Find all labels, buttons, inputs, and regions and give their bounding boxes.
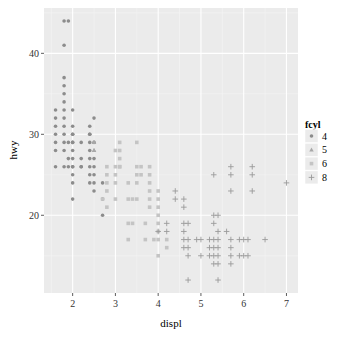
data-point-cyl-6	[114, 197, 118, 201]
y-axis-title: hwy	[7, 140, 19, 159]
data-point-cyl-4	[62, 133, 66, 137]
x-axis-title: displ	[160, 317, 181, 329]
data-point-cyl-4	[54, 124, 58, 128]
x-tick-label: 4	[156, 298, 161, 309]
data-point-cyl-6	[118, 149, 122, 153]
data-point-cyl-4	[62, 124, 66, 128]
data-point-cyl-6	[139, 173, 143, 177]
data-point-cyl-4	[92, 173, 96, 177]
data-point-cyl-4	[62, 116, 66, 120]
data-point-cyl-4	[88, 124, 92, 128]
data-point-cyl-4	[71, 165, 75, 169]
data-point-cyl-6	[148, 205, 152, 209]
data-point-cyl-4	[88, 173, 92, 177]
data-point-cyl-4	[62, 43, 66, 47]
data-point-cyl-6	[105, 165, 109, 169]
y-tick-label: 30	[29, 129, 39, 140]
legend-label: 6	[322, 158, 327, 169]
data-point-cyl-6	[114, 173, 118, 177]
data-point-cyl-6	[148, 197, 152, 201]
data-point-cyl-6	[114, 181, 118, 185]
data-point-cyl-4	[62, 165, 66, 169]
data-point-cyl-4	[54, 149, 58, 153]
data-point-cyl-4	[71, 173, 75, 177]
data-point-cyl-4	[67, 141, 71, 145]
data-point-cyl-6	[148, 189, 152, 193]
data-point-cyl-4	[54, 141, 58, 145]
data-point-cyl-4	[92, 116, 96, 120]
x-tick-label: 3	[113, 298, 118, 309]
x-tick-label: 2	[70, 298, 75, 309]
data-point-cyl-6	[135, 197, 139, 201]
data-point-cyl-6	[101, 197, 105, 201]
data-point-cyl-4	[101, 213, 105, 217]
y-axis: 203040	[29, 48, 44, 221]
data-point-cyl-4	[54, 108, 58, 112]
data-point-cyl-6	[126, 238, 130, 242]
plot-panel	[44, 8, 298, 293]
data-point-cyl-4	[71, 141, 75, 145]
legend-symbol-circle-icon	[310, 134, 314, 138]
data-point-cyl-6	[156, 222, 160, 226]
data-point-cyl-6	[126, 197, 130, 201]
data-point-cyl-4	[79, 141, 83, 145]
x-tick-label: 5	[198, 298, 203, 309]
data-point-cyl-6	[156, 238, 160, 242]
legend: fcyl 4568	[305, 119, 327, 184]
x-tick-label: 6	[241, 298, 246, 309]
legend-label: 4	[322, 131, 327, 142]
data-point-cyl-6	[114, 165, 118, 169]
data-point-cyl-4	[92, 189, 96, 193]
legend-symbol-square-icon	[310, 162, 314, 166]
data-point-cyl-6	[144, 238, 148, 242]
data-point-cyl-4	[62, 149, 66, 153]
data-point-cyl-4	[67, 19, 71, 23]
data-point-cyl-4	[92, 165, 96, 169]
data-point-cyl-4	[88, 149, 92, 153]
data-point-cyl-4	[88, 133, 92, 137]
data-point-cyl-6	[156, 254, 160, 258]
data-point-cyl-4	[62, 92, 66, 96]
data-point-cyl-4	[88, 181, 92, 185]
data-point-cyl-6	[135, 165, 139, 169]
data-point-cyl-6	[131, 222, 135, 226]
data-point-cyl-4	[62, 76, 66, 80]
data-point-cyl-4	[88, 141, 92, 145]
data-point-cyl-4	[67, 157, 71, 161]
data-point-cyl-4	[92, 157, 96, 161]
data-point-cyl-4	[88, 157, 92, 161]
data-point-cyl-6	[152, 238, 156, 242]
data-point-cyl-6	[165, 238, 169, 242]
data-point-cyl-6	[118, 165, 122, 169]
data-point-cyl-4	[54, 165, 58, 169]
data-point-cyl-6	[105, 181, 109, 185]
data-point-cyl-4	[71, 149, 75, 153]
data-point-cyl-6	[126, 181, 130, 185]
y-tick-label: 20	[29, 210, 39, 221]
data-point-cyl-4	[71, 108, 75, 112]
data-point-cyl-6	[105, 205, 109, 209]
data-point-cyl-6	[126, 222, 130, 226]
data-point-cyl-6	[144, 222, 148, 226]
data-point-cyl-6	[148, 181, 152, 185]
data-point-cyl-4	[67, 165, 71, 169]
data-point-cyl-4	[92, 181, 96, 185]
data-point-cyl-6	[148, 173, 152, 177]
data-point-cyl-6	[156, 197, 160, 201]
legend-label: 5	[322, 144, 327, 155]
data-point-cyl-6	[118, 157, 122, 161]
data-point-cyl-6	[156, 189, 160, 193]
data-point-cyl-6	[135, 141, 139, 145]
data-point-cyl-4	[71, 124, 75, 128]
data-point-cyl-4	[71, 197, 75, 201]
data-point-cyl-6	[156, 213, 160, 217]
data-point-cyl-4	[62, 108, 66, 112]
data-point-cyl-4	[88, 165, 92, 169]
data-point-cyl-4	[71, 157, 75, 161]
y-tick-label: 40	[29, 48, 39, 59]
data-point-cyl-4	[62, 84, 66, 88]
data-point-cyl-6	[139, 165, 143, 169]
data-point-cyl-6	[105, 189, 109, 193]
data-point-cyl-6	[105, 173, 109, 177]
data-point-cyl-6	[118, 141, 122, 145]
